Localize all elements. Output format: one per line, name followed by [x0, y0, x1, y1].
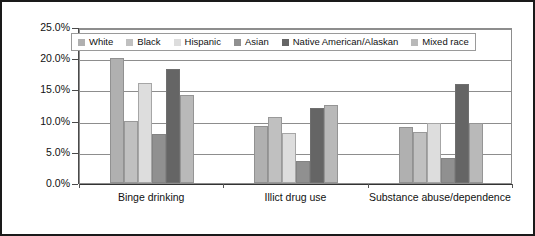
legend-swatch-icon [411, 39, 418, 46]
y-axis-labels: 25.0%20.0%15.0%10.0%5.0%0.0% [2, 2, 70, 236]
bar [441, 158, 455, 183]
x-axis-tick [79, 184, 80, 188]
bar [296, 161, 310, 183]
x-axis-category-label: Binge drinking [79, 191, 223, 204]
bar [254, 126, 268, 183]
bar [455, 84, 469, 183]
legend-label: Mixed race [422, 37, 468, 47]
bar [310, 108, 324, 184]
chart-figure: 25.0%20.0%15.0%10.0%5.0%0.0% Binge drink… [0, 0, 535, 236]
legend-swatch-icon [234, 39, 241, 46]
legend-swatch-icon [126, 39, 133, 46]
bar [413, 132, 427, 183]
bar [399, 127, 413, 183]
y-axis-tick-label: 10.0% [8, 116, 70, 127]
bar [166, 69, 180, 183]
y-axis-tick-label: 0.0% [8, 178, 70, 189]
y-axis-tick-label: 25.0% [8, 22, 70, 33]
legend-item: Hispanic [174, 37, 221, 47]
bar-group [369, 29, 513, 183]
legend-item: Native American/Alaskan [282, 37, 399, 47]
bar [124, 121, 138, 183]
x-axis-line [79, 184, 512, 185]
legend-item: Black [126, 37, 160, 47]
bar [110, 58, 124, 183]
x-axis-category-label: Substance abuse/dependence [368, 191, 512, 204]
y-axis-tick-label: 15.0% [8, 84, 70, 95]
bar [152, 134, 166, 183]
bar [180, 95, 194, 183]
legend-label: Black [137, 37, 160, 47]
bar-group [224, 29, 368, 183]
chart-legend: WhiteBlackHispanicAsianNative American/A… [71, 33, 476, 51]
legend-swatch-icon [174, 39, 181, 46]
x-axis-tick [368, 184, 369, 188]
plot-area [79, 28, 512, 184]
bar [324, 105, 338, 183]
bar [268, 117, 282, 183]
bar-group [80, 29, 224, 183]
y-axis-tick-label: 5.0% [8, 147, 70, 158]
legend-label: Asian [245, 37, 269, 47]
bar [469, 123, 483, 183]
bar [282, 133, 296, 183]
x-axis-tick [223, 184, 224, 188]
bar [138, 83, 152, 183]
legend-item: Mixed race [411, 37, 468, 47]
legend-label: White [89, 37, 113, 47]
bar [427, 123, 441, 183]
y-axis-tick [72, 184, 78, 185]
legend-label: Hispanic [185, 37, 221, 47]
legend-swatch-icon [282, 39, 289, 46]
x-axis-tick [512, 184, 513, 188]
y-axis-tick-label: 20.0% [8, 53, 70, 64]
legend-label: Native American/Alaskan [293, 37, 399, 47]
legend-item: White [78, 37, 113, 47]
legend-item: Asian [234, 37, 269, 47]
x-axis-category-label: Illict drug use [223, 191, 367, 204]
legend-swatch-icon [78, 39, 85, 46]
